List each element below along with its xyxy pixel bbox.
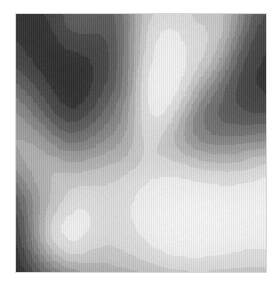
contour-plot-area: [16, 14, 266, 272]
contour-canvas: [16, 14, 266, 272]
figure-caption: [0, 274, 279, 299]
figure-root: [0, 0, 279, 299]
